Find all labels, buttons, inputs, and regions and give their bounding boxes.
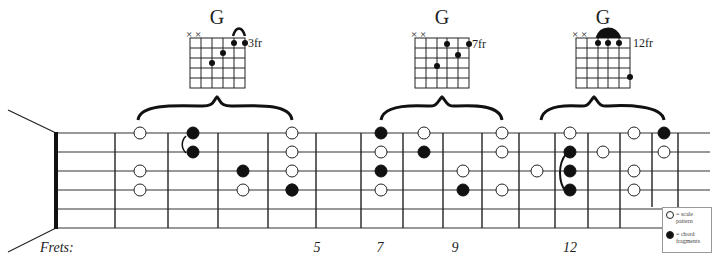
muted-strings-3: × ×: [572, 28, 587, 40]
filled-dot-icon: [666, 231, 674, 239]
fret-label-9: 9: [440, 240, 470, 256]
brace-right: [541, 97, 664, 120]
legend: = scale pattern = chord fragments: [662, 207, 712, 253]
position-label-1: 3fr: [248, 36, 262, 51]
muted-strings-2: × ×: [411, 28, 426, 40]
fret-label-7: 7: [365, 240, 395, 256]
scale-pattern-dots: [134, 127, 670, 196]
fret-label-12: 12: [555, 240, 585, 256]
nut: [54, 132, 58, 229]
position-label-3: 12fr: [633, 36, 653, 51]
chord-name-2: G: [422, 6, 462, 29]
chord-diagram-2-dots: [434, 41, 472, 69]
muted-strings-1: × ×: [186, 28, 201, 40]
open-dot-icon: [666, 211, 674, 219]
legend-chord-row: = chord fragments: [666, 231, 711, 245]
perspective-line-top: [8, 110, 56, 133]
legend-chord-label: = chord fragments: [676, 231, 711, 245]
chord-name-1: G: [197, 6, 237, 29]
brace-middle: [381, 97, 502, 120]
chord-name-3: G: [583, 6, 623, 29]
tie-left: [182, 136, 186, 153]
chord-diagram-2: [415, 38, 469, 88]
fret-lines: [115, 133, 678, 228]
fretboard-svg: [0, 0, 714, 262]
chord-diagram-1-dots: [209, 40, 248, 66]
frets-title: Frets:: [40, 240, 74, 256]
position-label-2: 7fr: [472, 37, 486, 52]
legend-scale-label: = scale pattern: [676, 211, 711, 225]
brace-left: [138, 97, 292, 120]
fret-label-5: 5: [302, 240, 332, 256]
chord-diagram-3-dots: [595, 40, 633, 80]
legend-scale-row: = scale pattern: [666, 211, 711, 225]
fretboard-diagram: G G G × × × × × × 3fr 7fr 12fr Frets: 5 …: [0, 0, 714, 262]
